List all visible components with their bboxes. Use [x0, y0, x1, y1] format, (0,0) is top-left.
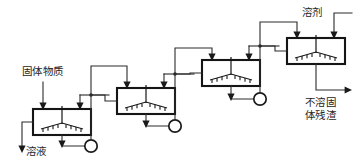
stage2-overflow-pipe [91, 95, 117, 101]
stage-1-group [18, 82, 109, 153]
flow-diagram-canvas [0, 0, 363, 166]
label-solid-feed: 固体物质 [22, 65, 63, 78]
label-solvent-in: 溶剂 [302, 6, 323, 19]
label-residue-out-line2: 体残渣 [305, 109, 336, 122]
stage3-overflow-pipe [175, 73, 202, 74]
label-residue-out-line1: 不溶固 [305, 96, 336, 109]
pump-3[interactable] [254, 93, 266, 105]
residue-outlet-arrow-icon [345, 86, 352, 93]
solution-product-arrow-icon [18, 146, 25, 153]
stage-3-group [175, 44, 279, 105]
process-flow-diagram: 固体物质 溶液 溶剂 不溶固 体残渣 [0, 0, 363, 166]
solution-product-pipe [22, 122, 33, 146]
solvent-inlet-pipe [334, 13, 352, 33]
stage-4-group [260, 13, 352, 94]
residue-outlet-pipe [316, 64, 345, 90]
stage-2-group [91, 66, 194, 132]
pump-1[interactable] [85, 140, 97, 152]
label-solution-out: 溶液 [26, 145, 47, 158]
stage3-underflow-pipe [231, 86, 254, 99]
stage3-underflow-arrow-icon [227, 94, 234, 101]
pump-2[interactable] [169, 120, 181, 132]
stage1-underflow-pipe [62, 135, 85, 146]
stage4-overflow-pipe [260, 46, 287, 51]
stage2-underflow-arrow-icon [142, 121, 149, 128]
stage2-underflow-pipe [146, 114, 169, 126]
stage1-underflow-arrow-icon [58, 141, 65, 148]
